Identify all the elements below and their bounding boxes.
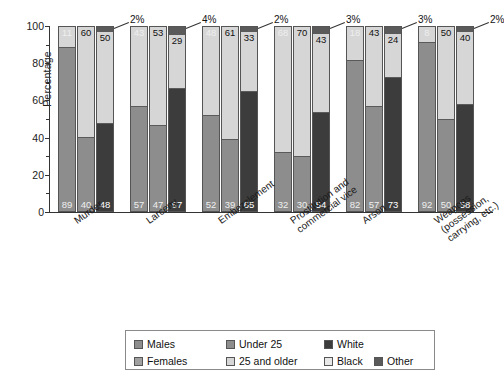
segment-value-label: 40 xyxy=(457,33,473,43)
y-tick-label: 60 xyxy=(18,94,44,106)
legend-item[interactable]: Males xyxy=(134,338,175,350)
stacked-bar[interactable]: 7030 xyxy=(293,26,311,212)
bar-segment: 40 xyxy=(457,31,473,105)
segment-value-label: 50 xyxy=(97,33,113,43)
stacked-bar[interactable]: 3365 xyxy=(240,26,258,212)
segment-value-label: 89 xyxy=(59,200,75,210)
stacked-bar[interactable]: 6139 xyxy=(221,26,239,212)
legend-swatch xyxy=(134,357,143,366)
legend-label: Males xyxy=(147,338,175,350)
stacked-bar[interactable]: 4058 xyxy=(456,26,474,212)
bar-segment: 40 xyxy=(78,137,94,211)
legend-label: Black xyxy=(337,355,363,367)
segment-value-label: 70 xyxy=(294,28,310,38)
bar-segment: 48 xyxy=(203,27,219,115)
chart-legend: MalesFemalesUnder 2525 and olderWhiteBla… xyxy=(125,330,435,370)
legend-swatch xyxy=(324,340,333,349)
segment-value-label: 52 xyxy=(203,200,219,210)
stacked-bar[interactable]: 892 xyxy=(418,26,436,212)
bar-segment: 52 xyxy=(203,115,219,211)
stacked-bar[interactable]: 5048 xyxy=(96,26,114,212)
stacked-bar[interactable]: 2473 xyxy=(384,26,402,212)
bar-segment: 57 xyxy=(366,106,382,211)
other-percent-callout: 2% xyxy=(490,14,504,25)
bar-group: 683270304354 xyxy=(274,26,336,212)
legend-label: Other xyxy=(387,355,413,367)
bar-segment: 68 xyxy=(275,27,291,152)
segment-value-label: 33 xyxy=(241,33,257,43)
segment-value-label: 57 xyxy=(131,200,147,210)
bar-segment: 47 xyxy=(150,125,166,211)
bar-group: 435753472967 xyxy=(130,26,192,212)
y-tick-label: 40 xyxy=(18,132,44,144)
segment-value-label: 18 xyxy=(347,28,363,38)
segment-value-label: 43 xyxy=(131,28,147,38)
segment-value-label: 73 xyxy=(385,200,401,210)
legend-label: 25 and older xyxy=(239,355,297,367)
legend-item[interactable]: Black xyxy=(324,355,363,367)
legend-swatch xyxy=(324,357,333,366)
bar-segment: 50 xyxy=(97,31,113,123)
bar-segment: 32 xyxy=(275,152,291,211)
bar-segment: 18 xyxy=(347,27,363,60)
legend-swatch xyxy=(226,357,235,366)
bar-segment: 43 xyxy=(313,33,329,112)
bar-group: 89250504058 xyxy=(418,26,480,212)
stacked-bar[interactable]: 6040 xyxy=(77,26,95,212)
segment-value-label: 24 xyxy=(385,35,401,45)
legend-swatch xyxy=(374,357,383,366)
bar-segment: 39 xyxy=(222,139,238,211)
stacked-bar[interactable]: 4357 xyxy=(130,26,148,212)
segment-value-label: 92 xyxy=(419,200,435,210)
bar-segment: 70 xyxy=(294,27,310,156)
bar-group: 188243572473 xyxy=(346,26,408,212)
other-percent-callout: 2% xyxy=(130,14,144,25)
stacked-bar[interactable]: 5050 xyxy=(437,26,455,212)
bar-segment: 8 xyxy=(419,27,435,42)
bar-group: 485261393365 xyxy=(202,26,264,212)
bar-group: 118960405048 xyxy=(58,26,120,212)
bar-segment: 67 xyxy=(169,88,185,211)
stacked-bar[interactable]: 6832 xyxy=(274,26,292,212)
bar-segment: 43 xyxy=(131,27,147,106)
y-tick-label: 20 xyxy=(18,169,44,181)
stacked-bar[interactable]: 4852 xyxy=(202,26,220,212)
bar-segment: 89 xyxy=(59,47,75,211)
bar-segment: 60 xyxy=(78,27,94,137)
bar-segment: 57 xyxy=(131,106,147,211)
other-percent-callout: 3% xyxy=(346,14,360,25)
legend-label: White xyxy=(337,338,364,350)
bar-segment: 92 xyxy=(419,42,435,211)
stacked-bar[interactable]: 4354 xyxy=(312,26,330,212)
stacked-bar[interactable]: 4357 xyxy=(365,26,383,212)
bar-segment xyxy=(169,27,185,34)
x-axis-line xyxy=(49,212,493,213)
segment-value-label: 11 xyxy=(59,28,75,38)
stacked-bar[interactable]: 5347 xyxy=(149,26,167,212)
segment-value-label: 82 xyxy=(347,200,363,210)
legend-item[interactable]: Females xyxy=(134,355,187,367)
bar-segment: 61 xyxy=(222,27,238,139)
stacked-bar[interactable]: 2967 xyxy=(168,26,186,212)
y-tick-label: 80 xyxy=(18,57,44,69)
segment-value-label: 8 xyxy=(419,28,435,38)
bar-segment: 50 xyxy=(438,27,454,119)
bar-segment: 29 xyxy=(169,34,185,87)
bar-segment: 33 xyxy=(241,31,257,92)
segment-value-label: 43 xyxy=(366,28,382,38)
legend-item[interactable]: White xyxy=(324,338,364,350)
segment-value-label: 60 xyxy=(78,28,94,38)
stacked-bar[interactable]: 1189 xyxy=(58,26,76,212)
bar-segment: 24 xyxy=(385,33,401,77)
segment-value-label: 48 xyxy=(203,28,219,38)
bar-segment: 11 xyxy=(59,27,75,47)
segment-value-label: 32 xyxy=(275,200,291,210)
legend-item[interactable]: 25 and older xyxy=(226,355,297,367)
other-percent-callout: 4% xyxy=(202,14,216,25)
legend-item[interactable]: Under 25 xyxy=(226,338,282,350)
legend-item[interactable]: Other xyxy=(374,355,413,367)
legend-swatch xyxy=(226,340,235,349)
bar-segment: 48 xyxy=(97,123,113,211)
legend-label: Females xyxy=(147,355,187,367)
